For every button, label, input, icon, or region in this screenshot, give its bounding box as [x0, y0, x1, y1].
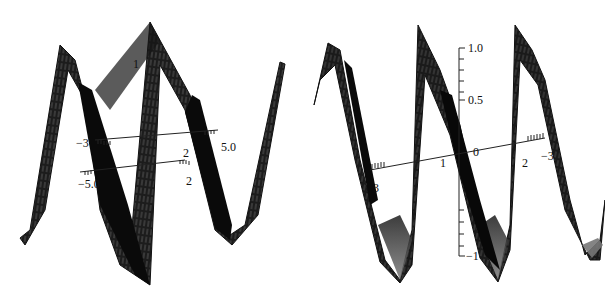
z-tick-label: 1.0 — [468, 42, 483, 54]
y-tick-label: −3 — [76, 137, 89, 149]
z-tick-label: 0.5 — [468, 94, 483, 106]
y-tick-label: 2 — [183, 147, 189, 159]
y-tick-label: 5.0 — [221, 141, 236, 153]
z-tick-label: 0 — [473, 146, 479, 158]
surface-ribbon — [20, 22, 285, 285]
x-tick-label: −5.0 — [78, 178, 100, 190]
surface-plot-right-canvas — [300, 0, 605, 299]
z-tick-label: −1 — [466, 250, 479, 262]
surface-plot-left-canvas — [0, 0, 300, 299]
y-tick-label: −3 — [541, 150, 554, 162]
surface-plot-left: 1 −3 2 5.0 −5.0 2 — [0, 0, 300, 299]
y-tick-label: 2 — [522, 157, 528, 169]
z-tick-label: 1 — [133, 58, 139, 70]
x-tick-label: 1 — [440, 157, 446, 169]
x-tick-label: 3 — [373, 182, 379, 194]
x-tick-label: 2 — [186, 175, 192, 187]
surface-plot-right: 1.0 0.5 0 −1 −3 3 1 2 — [300, 0, 605, 299]
